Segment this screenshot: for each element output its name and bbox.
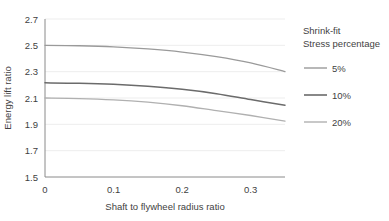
energy-lift-ratio-chart: 2.7 2.5 2.3 2.1 1.9 1.7 1.5 0 0.1 0.2 0.… bbox=[0, 0, 389, 221]
y-tick-label: 1.9 bbox=[25, 119, 38, 130]
y-tick-label: 2.5 bbox=[25, 40, 38, 51]
legend-label: 5% bbox=[332, 63, 346, 74]
y-axis-title: Energy lift ratio bbox=[2, 66, 13, 129]
y-tick-label: 2.7 bbox=[25, 14, 38, 25]
x-axis-title: Shaft to flywheel radius ratio bbox=[105, 201, 224, 212]
legend-title-line-2: Stress percentage bbox=[303, 38, 380, 49]
x-tick-label: 0.1 bbox=[107, 184, 120, 195]
y-tick-label: 2.3 bbox=[25, 66, 38, 77]
legend-title-line-1: Shrink-fit bbox=[303, 25, 341, 36]
y-tick-label: 2.1 bbox=[25, 93, 38, 104]
x-tick-label: 0.3 bbox=[244, 184, 257, 195]
y-tick-label: 1.7 bbox=[25, 145, 38, 156]
legend-label: 10% bbox=[332, 90, 352, 101]
y-tick-label: 1.5 bbox=[25, 172, 38, 183]
x-tick-label: 0 bbox=[42, 184, 47, 195]
x-tick-label: 0.2 bbox=[175, 184, 188, 195]
legend-label: 20% bbox=[332, 117, 352, 128]
